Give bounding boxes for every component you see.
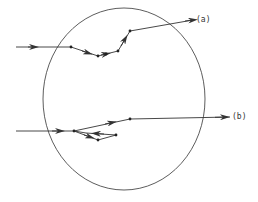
arrow-icon [84, 135, 90, 137]
arrow-icon [96, 134, 104, 135]
arrow-icon [121, 39, 125, 46]
trajectory-diagram [0, 0, 258, 202]
sphere-boundary [43, 8, 205, 190]
diagram-canvas: (a) (b) [0, 0, 258, 202]
trajectory-a [16, 20, 193, 56]
label-a: (a) [196, 16, 210, 24]
arrow-icon [185, 20, 193, 21]
label-b: (b) [232, 113, 246, 121]
